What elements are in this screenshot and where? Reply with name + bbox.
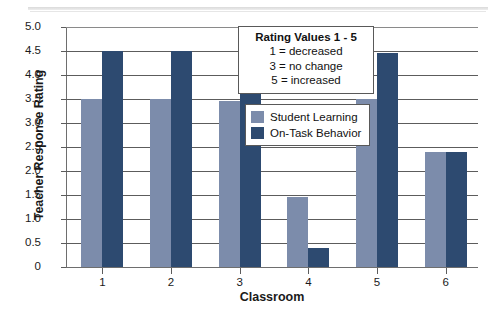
- y-tick-label: 0.5: [1, 236, 41, 248]
- y-tick-mark: [61, 75, 66, 76]
- y-tick-label: 0: [1, 260, 41, 272]
- y-tick-label: 1.5: [1, 188, 41, 200]
- legend-item-student-learning: Student Learning: [251, 109, 361, 125]
- bar-4-student-learning: [287, 197, 308, 267]
- y-tick-mark: [61, 195, 66, 196]
- bar-2-on-task-behavior: [171, 51, 192, 267]
- bar-chart-figure: Teacher Response Rating 5.04.54.03.53.02…: [0, 0, 495, 320]
- x-tick-label: 1: [82, 276, 122, 288]
- x-axis-title: Classroom: [66, 290, 478, 304]
- gridline: [66, 243, 478, 244]
- y-tick-mark: [61, 27, 66, 28]
- gridline: [66, 99, 478, 100]
- legend-item-on-task-behavior: On-Task Behavior: [251, 125, 361, 141]
- y-tick-label: 3.0: [1, 116, 41, 128]
- rating-values-annotation: Rating Values 1 - 5 1 = decreased 3 = no…: [238, 26, 374, 94]
- x-tick-mark: [377, 268, 378, 274]
- y-tick-label: 4.5: [1, 44, 41, 56]
- y-tick-mark: [61, 267, 66, 268]
- y-tick-mark: [61, 99, 66, 100]
- gridline: [66, 171, 478, 172]
- gridline: [66, 195, 478, 196]
- rating-values-title: Rating Values 1 - 5: [246, 31, 366, 43]
- x-tick-label: 2: [151, 276, 191, 288]
- bar-3-student-learning: [219, 101, 240, 267]
- y-tick-mark: [61, 51, 66, 52]
- legend-swatch-icon-on-task-behavior: [251, 127, 264, 139]
- bar-4-on-task-behavior: [308, 248, 329, 267]
- rating-values-line-1: 1 = decreased: [246, 44, 366, 59]
- bar-6-on-task-behavior: [446, 152, 467, 267]
- rating-values-line-3: 5 = increased: [246, 73, 366, 88]
- page-edge-artifact: [28, 7, 488, 10]
- gridline: [66, 147, 478, 148]
- y-tick-mark: [61, 219, 66, 220]
- x-tick-label: 3: [220, 276, 260, 288]
- bar-2-student-learning: [150, 99, 171, 267]
- y-tick-mark: [61, 243, 66, 244]
- legend-label-student-learning: Student Learning: [270, 111, 358, 123]
- bar-1-student-learning: [81, 99, 102, 267]
- rating-values-line-2: 3 = no change: [246, 59, 366, 74]
- y-tick-label: 4.0: [1, 68, 41, 80]
- x-tick-mark: [308, 268, 309, 274]
- legend-swatch-icon-student-learning: [251, 111, 264, 123]
- y-tick-label: 2.5: [1, 140, 41, 152]
- y-tick-label: 1.0: [1, 212, 41, 224]
- chart-legend: Student Learning On-Task Behavior: [245, 104, 370, 146]
- y-tick-label: 3.5: [1, 92, 41, 104]
- page-edge-artifact-secondary: [30, 11, 486, 12]
- bar-6-student-learning: [425, 152, 446, 267]
- bar-1-on-task-behavior: [102, 51, 123, 267]
- x-tick-mark: [102, 268, 103, 274]
- y-tick-label: 2.0: [1, 164, 41, 176]
- y-tick-mark: [61, 171, 66, 172]
- x-tick-mark: [171, 268, 172, 274]
- x-tick-mark: [446, 268, 447, 274]
- x-tick-label: 6: [426, 276, 466, 288]
- y-tick-mark: [61, 147, 66, 148]
- x-tick-label: 5: [357, 276, 397, 288]
- x-tick-mark: [240, 268, 241, 274]
- x-axis-line: [66, 267, 478, 268]
- y-tick-mark: [61, 123, 66, 124]
- legend-label-on-task-behavior: On-Task Behavior: [270, 127, 361, 139]
- y-tick-label: 5.0: [1, 20, 41, 32]
- gridline: [66, 219, 478, 220]
- bar-5-on-task-behavior: [377, 53, 398, 267]
- x-tick-label: 4: [288, 276, 328, 288]
